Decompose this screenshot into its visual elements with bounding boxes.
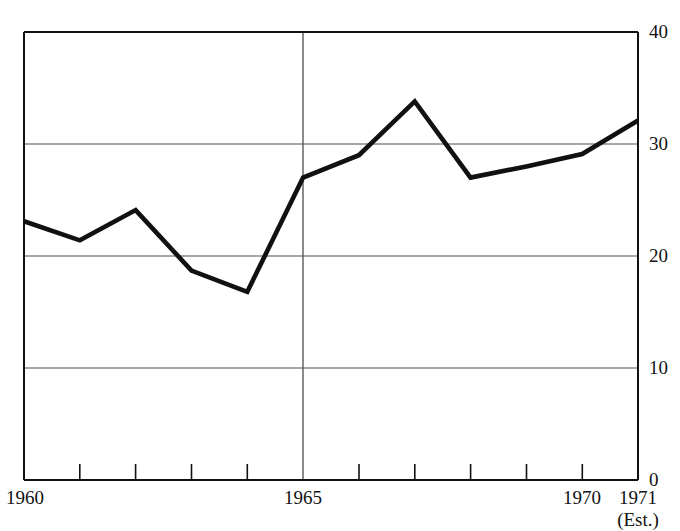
estimate-annotation: (Est.) bbox=[608, 510, 668, 529]
y-tick-label-40: 40 bbox=[649, 22, 668, 41]
y-tick-label-20: 20 bbox=[649, 246, 668, 265]
x-tick-label-1965: 1965 bbox=[278, 488, 328, 507]
y-tick-label-30: 30 bbox=[649, 134, 668, 153]
y-tick-label-10: 10 bbox=[649, 358, 668, 377]
x-tick-label-1970: 1970 bbox=[557, 488, 607, 507]
x-tick-label-1971: 1971 bbox=[613, 488, 663, 507]
chart-canvas bbox=[0, 0, 680, 531]
x-tick-label-1960: 1960 bbox=[0, 488, 50, 507]
line-chart: 40 30 20 10 0 1960 1965 1970 1971 (Est.) bbox=[0, 0, 680, 531]
